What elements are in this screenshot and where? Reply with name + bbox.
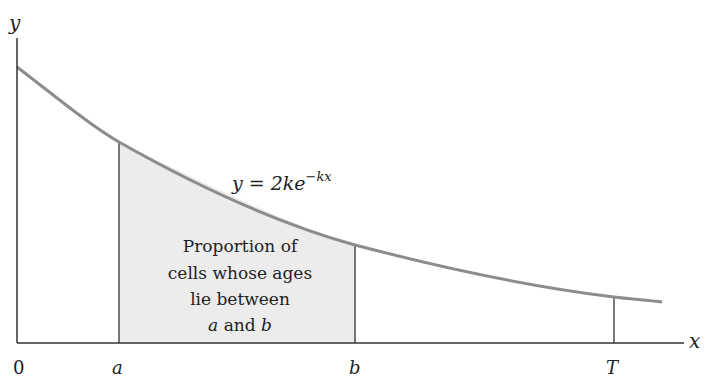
tick-b-label: b [349,357,361,378]
equation-base: y = 2ke [231,172,306,194]
origin-label: 0 [13,357,24,378]
region-line-4: a and b [208,315,272,335]
diagram: y x 0 a b T y = 2ke−kx Proportion of cel… [0,0,706,384]
region-b: b [261,315,272,335]
y-axis-label: y [8,11,21,35]
region-a: a [208,315,218,335]
tick-a-label: a [112,357,123,378]
tick-T-label: T [606,357,620,378]
equation-exponent: −kx [306,169,333,184]
x-axis-label: x [689,329,700,353]
region-line-3: lie between [190,289,290,309]
region-line-2: cells whose ages [168,263,312,283]
curve-equation: y = 2ke−kx [231,169,332,194]
region-line-1: Proportion of [183,236,299,256]
region-and: and [218,315,261,335]
